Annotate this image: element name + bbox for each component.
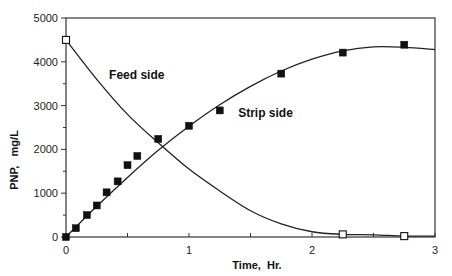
tick-labels: 0123010002000300040005000 [34, 12, 439, 256]
feed-side-point [401, 233, 408, 240]
y-tick-label: 0 [52, 231, 58, 243]
strip-side-point [83, 212, 90, 219]
strip-side-point [103, 189, 110, 196]
plot-frame [66, 18, 435, 237]
strip-side-point [72, 225, 79, 232]
feed-side-point [63, 36, 70, 43]
x-tick-label: 1 [186, 244, 192, 256]
x-axis-title: Time, Hr. [232, 259, 281, 271]
y-tick-label: 5000 [34, 12, 58, 24]
y-axis-title: PNP, mg/L [8, 130, 20, 190]
annotation-feed-side: Feed side [109, 68, 165, 82]
y-tick-label: 4000 [34, 56, 58, 68]
y-tick-label: 3000 [34, 100, 58, 112]
strip-side-point [63, 234, 70, 241]
x-tick-label: 3 [432, 244, 438, 256]
strip-side-point [339, 49, 346, 56]
strip-side-point [93, 202, 100, 209]
strip-side-point [124, 162, 131, 169]
annotation-strip-side: Strip side [238, 106, 293, 120]
y-tick-label: 1000 [34, 187, 58, 199]
strip-side-point [278, 70, 285, 77]
y-tick-label: 2000 [34, 143, 58, 155]
strip-side-point [134, 152, 141, 159]
strip-side-point [114, 178, 121, 185]
strip-side-point [155, 135, 162, 142]
feed-side-point [339, 231, 346, 238]
strip-side-point [216, 107, 223, 114]
strip-side-point [401, 41, 408, 48]
chart: 0123010002000300040005000 Feed side Stri… [0, 0, 452, 276]
strip-side-point [186, 122, 193, 129]
axis-ticks [61, 18, 435, 237]
x-tick-label: 2 [309, 244, 315, 256]
x-tick-label: 0 [63, 244, 69, 256]
